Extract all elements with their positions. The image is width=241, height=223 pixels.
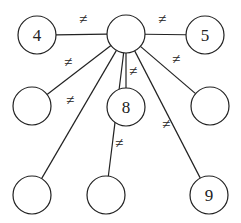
- not-equal-label: ≠: [129, 63, 137, 79]
- edge-center-n5: [145, 34, 186, 35]
- node-label: 9: [205, 186, 214, 205]
- node-label: 8: [122, 98, 131, 117]
- edge-center-n4: [56, 34, 107, 35]
- node-center: [107, 15, 145, 53]
- graph-svg: ≠≠≠≠≠≠≠≠4589: [0, 0, 241, 223]
- not-equal-label: ≠: [172, 51, 180, 67]
- not-equal-label: ≠: [66, 92, 74, 108]
- node-midRight: [191, 87, 229, 125]
- node-label: 5: [201, 26, 210, 45]
- not-equal-label: ≠: [162, 116, 170, 132]
- node-botMid: [87, 176, 125, 214]
- not-equal-label: ≠: [158, 11, 166, 27]
- node-label: 4: [33, 26, 42, 45]
- edge-center-midRight: [140, 46, 195, 93]
- not-equal-label: ≠: [79, 11, 87, 27]
- not-equal-label: ≠: [115, 135, 123, 151]
- node-botLeft: [13, 176, 51, 214]
- graph-diagram: ≠≠≠≠≠≠≠≠4589: [0, 0, 241, 223]
- not-equal-label: ≠: [64, 54, 72, 70]
- edge-center-midLeft: [47, 46, 111, 95]
- node-midLeft: [13, 87, 51, 125]
